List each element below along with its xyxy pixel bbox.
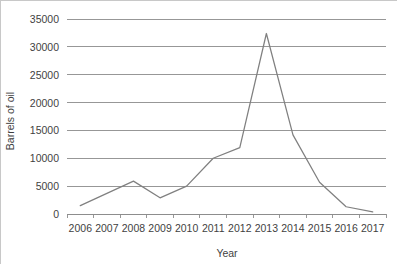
y-axis-tick-label: 5000 — [36, 180, 60, 192]
x-axis-tick-label: 2010 — [175, 222, 199, 234]
y-axis-tick-label: 25000 — [30, 69, 59, 81]
x-axis-tick-label: 2012 — [228, 222, 252, 234]
x-axis-tick-label: 2013 — [255, 222, 279, 234]
y-axis-title: Barrels of oil — [4, 92, 16, 150]
y-axis-tick-label: 20000 — [30, 97, 59, 109]
y-axis-tick-label: 0 — [53, 208, 59, 220]
x-axis-tick-label: 2007 — [95, 222, 119, 234]
x-axis-tick-label: 2008 — [122, 222, 146, 234]
x-axis-tick-label: 2016 — [334, 222, 358, 234]
line-chart: 05000100001500020000250003000035000 2006… — [1, 1, 397, 264]
x-axis-tick-label: 2006 — [69, 222, 93, 234]
x-axis-tick-label: 2015 — [308, 222, 332, 234]
y-axis-tick-label: 10000 — [30, 152, 59, 164]
x-axis-tick-label: 2011 — [202, 222, 225, 234]
y-axis-tick-label: 35000 — [30, 13, 59, 25]
y-axis-tick-label: 30000 — [30, 41, 59, 53]
y-axis-tick-label: 15000 — [30, 124, 59, 136]
x-axis-tick-label: 2009 — [148, 222, 172, 234]
x-axis-tick-label: 2017 — [361, 222, 385, 234]
x-axis-tick-label: 2014 — [281, 222, 305, 234]
chart-figure: 05000100001500020000250003000035000 2006… — [0, 0, 397, 264]
x-axis-title: Year — [216, 247, 238, 259]
